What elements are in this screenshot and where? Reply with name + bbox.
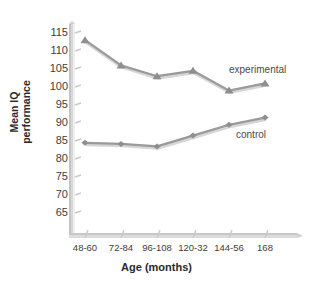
y-tick-label: 65 bbox=[38, 207, 68, 218]
y-tick-label: 105 bbox=[38, 63, 68, 74]
iq-performance-line-chart: 11511010510095908580757065 48-6072-8496-… bbox=[0, 0, 313, 290]
y-tick-label: 70 bbox=[38, 189, 68, 200]
x-tick-label: 168 bbox=[238, 243, 292, 253]
y-axis-title: Mean IQ performance bbox=[8, 62, 32, 162]
y-axis-title-line-2: performance bbox=[20, 62, 32, 162]
y-axis bbox=[69, 21, 75, 238]
y-tick-label: 95 bbox=[38, 99, 68, 110]
x-axis bbox=[69, 233, 303, 238]
y-axis-title-line-1: Mean IQ bbox=[8, 62, 20, 162]
y-tick-label: 100 bbox=[38, 81, 68, 92]
x-axis-title: Age (months) bbox=[0, 261, 313, 273]
y-tick-label: 115 bbox=[38, 27, 68, 38]
y-tick-label: 90 bbox=[38, 117, 68, 128]
series-label-control: control bbox=[236, 129, 266, 140]
series-label-experimental: experimental bbox=[229, 64, 286, 75]
y-tick-label: 75 bbox=[38, 171, 68, 182]
data-point-marker bbox=[81, 36, 90, 43]
y-tick-marks bbox=[75, 31, 81, 213]
y-tick-label: 80 bbox=[38, 153, 68, 164]
y-tick-label: 85 bbox=[38, 135, 68, 146]
data-point-marker bbox=[261, 79, 270, 86]
y-tick-label: 110 bbox=[38, 45, 68, 56]
